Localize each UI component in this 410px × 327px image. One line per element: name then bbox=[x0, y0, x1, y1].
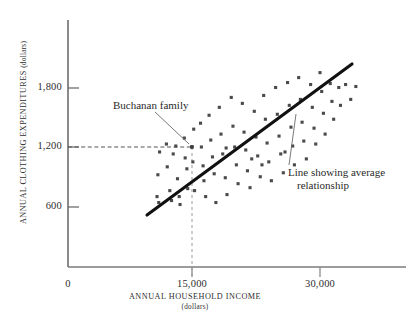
scatter-point bbox=[224, 176, 227, 179]
scatter-point bbox=[156, 173, 159, 176]
scatter-point bbox=[192, 128, 195, 131]
scatter-point bbox=[246, 169, 249, 172]
scatter-point bbox=[211, 155, 214, 158]
scatter-point bbox=[311, 106, 314, 109]
scatter-point bbox=[248, 186, 251, 189]
scatter-point bbox=[320, 90, 323, 93]
scatter-point bbox=[283, 150, 286, 153]
scatter-plot-figure: 1,800 1,200 600 0 15,000 30,000 ANNUAL C… bbox=[0, 0, 410, 327]
annotation-trend-line-2: relationship bbox=[288, 179, 400, 192]
trendline-leader-line bbox=[289, 114, 296, 165]
scatter-point bbox=[305, 157, 308, 160]
scatter-point bbox=[166, 165, 169, 168]
scatter-point bbox=[256, 154, 259, 157]
scatter-point bbox=[199, 122, 202, 125]
scatter-point bbox=[185, 167, 188, 170]
scatter-point bbox=[168, 189, 171, 192]
scatter-point bbox=[302, 140, 305, 143]
highlighted-point-buchanan bbox=[190, 145, 193, 148]
scatter-point bbox=[260, 163, 263, 166]
scatter-point bbox=[259, 175, 262, 178]
scatter-point bbox=[209, 139, 212, 142]
scatter-point bbox=[165, 142, 168, 145]
scatter-point bbox=[235, 163, 238, 166]
scatter-point bbox=[208, 114, 211, 117]
scatter-point bbox=[286, 81, 289, 84]
scatter-point bbox=[184, 156, 187, 159]
y-axis-title-units: (dollars) bbox=[19, 41, 28, 68]
y-axis-title-main: ANNUAL CLOTHING EXPENDITURES bbox=[19, 70, 28, 224]
scatter-point bbox=[282, 171, 285, 174]
scatter-point bbox=[191, 160, 194, 163]
scatter-point bbox=[312, 127, 315, 130]
scatter-point bbox=[274, 86, 277, 89]
x-tick-label-15000: 15,000 bbox=[162, 278, 222, 289]
scatter-point bbox=[277, 135, 280, 138]
scatter-point bbox=[318, 71, 321, 74]
scatter-point bbox=[237, 182, 240, 185]
trend-line bbox=[147, 64, 352, 215]
scatter-point bbox=[264, 118, 267, 121]
scatter-point bbox=[174, 144, 177, 147]
scatter-point bbox=[218, 106, 221, 109]
buchanan-leader-line bbox=[155, 112, 189, 144]
scatter-point bbox=[157, 201, 160, 204]
scatter-point bbox=[324, 133, 327, 136]
scatter-point bbox=[314, 142, 317, 145]
scatter-point bbox=[289, 126, 292, 129]
y-axis-title: ANNUAL CLOTHING EXPENDITURES (dollars) bbox=[19, 33, 28, 233]
scatter-point bbox=[158, 150, 161, 153]
scatter-point bbox=[344, 83, 347, 86]
scatter-point bbox=[231, 125, 234, 128]
scatter-point bbox=[176, 177, 179, 180]
scatter-point bbox=[219, 133, 222, 136]
annotation-trend-line-1: Line showing average bbox=[288, 166, 385, 178]
scatter-point bbox=[213, 172, 216, 175]
scatter-point bbox=[332, 118, 335, 121]
annotation-trend-line: Line showing average relationship bbox=[288, 166, 400, 192]
scatter-point bbox=[288, 104, 291, 107]
scatter-point bbox=[221, 152, 224, 155]
scatter-point bbox=[193, 189, 196, 192]
scatter-point bbox=[204, 195, 207, 198]
scatter-point bbox=[301, 121, 304, 124]
x-axis-title-units: (dollars) bbox=[95, 303, 295, 311]
scatter-point bbox=[354, 85, 357, 88]
scatter-point bbox=[225, 193, 228, 196]
x-axis-title: ANNUAL HOUSEHOLD INCOME bbox=[95, 292, 295, 301]
scatter-point bbox=[322, 112, 325, 115]
scatter-point bbox=[267, 160, 270, 163]
scatter-point bbox=[337, 86, 340, 89]
scatter-point bbox=[230, 96, 233, 99]
scatter-point bbox=[309, 83, 312, 86]
scatter-point bbox=[253, 110, 256, 113]
scatter-point bbox=[214, 201, 217, 204]
scatter-point bbox=[266, 141, 269, 144]
scatter-point bbox=[276, 113, 279, 116]
x-tick-label-30000: 30,000 bbox=[290, 278, 350, 289]
scatter-point bbox=[339, 104, 342, 107]
scatter-point bbox=[243, 131, 246, 134]
x-tick-label-0: 0 bbox=[48, 278, 88, 289]
scatter-point bbox=[270, 179, 273, 182]
annotation-buchanan-family: Buchanan family bbox=[113, 99, 188, 112]
scatter-point bbox=[225, 146, 228, 149]
scatter-point bbox=[179, 203, 182, 206]
scatter-point bbox=[250, 157, 253, 160]
scatter-point bbox=[244, 148, 247, 151]
scatter-point bbox=[330, 100, 333, 103]
scatter-point bbox=[200, 145, 203, 148]
scatter-point bbox=[202, 164, 205, 167]
scatter-point bbox=[262, 94, 265, 97]
scatter-point bbox=[297, 76, 300, 79]
scatter-point bbox=[155, 195, 158, 198]
scatter-point bbox=[202, 179, 205, 182]
scatter-point bbox=[279, 152, 282, 155]
scatter-point bbox=[349, 98, 352, 101]
scatter-point bbox=[172, 152, 175, 155]
scatter-point bbox=[178, 195, 181, 198]
scatter-point bbox=[241, 102, 244, 105]
